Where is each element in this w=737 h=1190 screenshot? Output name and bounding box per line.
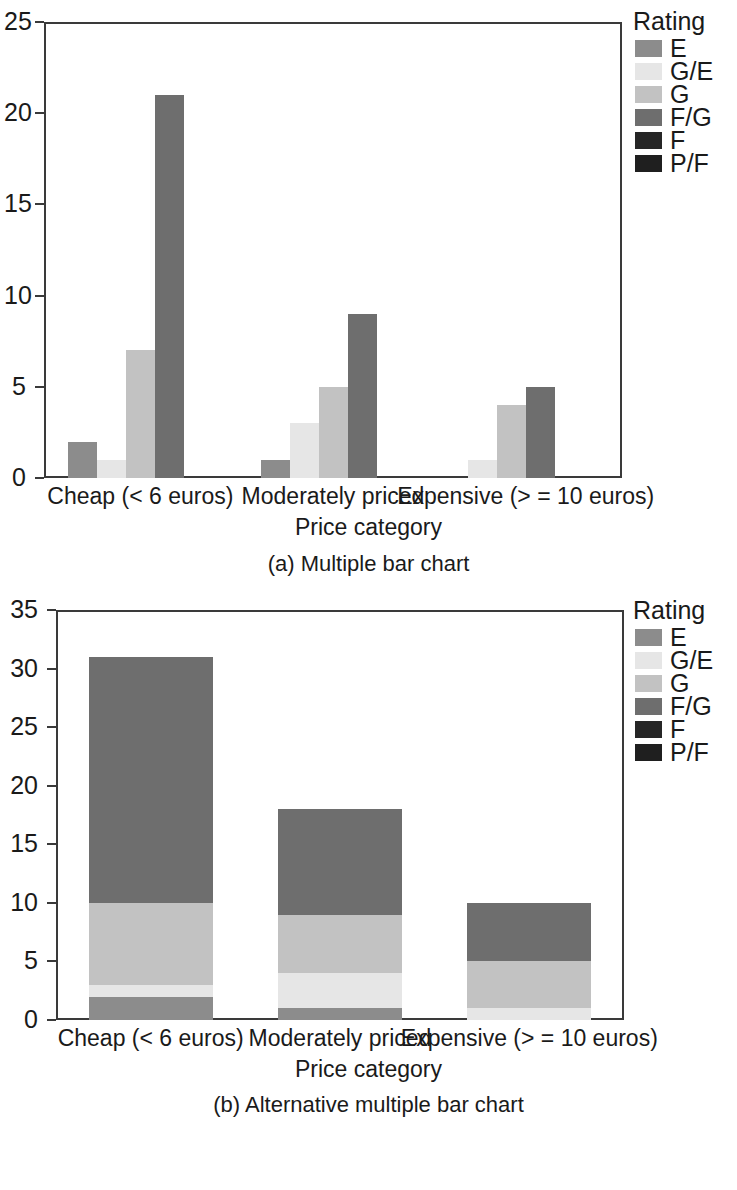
legend-swatch-icon [635, 721, 662, 738]
y-tick-mark [35, 477, 44, 479]
chart-b-x-axis-title: Price category [0, 1057, 737, 1081]
bar-G-0 [126, 350, 155, 478]
bar-G-E-2 [468, 460, 497, 478]
stack-segment-G-E-0 [89, 985, 213, 997]
y-tick-label: 15 [4, 191, 26, 216]
stacked-bar-0 [89, 657, 213, 1020]
chart-b-y-axis-line [56, 610, 58, 1020]
legend-swatch-icon [635, 744, 662, 761]
chart-a-top-border [44, 22, 622, 24]
y-tick-label: 25 [4, 714, 38, 739]
legend-swatch-icon [635, 86, 662, 103]
y-tick-mark [35, 21, 44, 23]
y-tick-mark [47, 609, 56, 611]
figure-alternative-multiple-bar-chart: 05101520253035 Cheap (< 6 euros)Moderate… [0, 585, 737, 1190]
chart-b-caption: (b) Alternative multiple bar chart [0, 1093, 737, 1117]
y-tick-mark [47, 726, 56, 728]
chart-b-top-border [56, 610, 624, 612]
legend-swatch-icon [635, 675, 662, 692]
y-tick-mark [35, 295, 44, 297]
chart-b-legend-title: Rating [633, 597, 705, 623]
x-tick-label: Expensive (> = 10 euros) [399, 1026, 659, 1050]
y-tick-mark [47, 785, 56, 787]
legend-item-label: P/F [670, 150, 709, 176]
bar-E-1 [261, 460, 290, 478]
bar-G-E-1 [290, 423, 319, 478]
stack-segment-G-E-1 [278, 973, 402, 1008]
legend-swatch-icon [635, 109, 662, 126]
y-tick-label: 15 [4, 831, 38, 856]
legend-swatch-icon [635, 132, 662, 149]
y-tick-label: 10 [4, 283, 26, 308]
y-tick-label: 5 [4, 374, 26, 399]
stacked-bar-2 [467, 903, 591, 1020]
y-tick-label: 20 [4, 773, 38, 798]
bar-F-G-2 [526, 387, 555, 478]
bar-F-G-0 [155, 95, 184, 478]
y-tick-mark [47, 1019, 56, 1021]
y-tick-label: 25 [4, 9, 26, 34]
legend-swatch-icon [635, 40, 662, 57]
y-tick-label: 30 [4, 656, 38, 681]
y-tick-mark [35, 386, 44, 388]
figure-multiple-bar-chart: 0510152025 Cheap (< 6 euros)Moderately p… [0, 0, 737, 585]
stack-segment-G-2 [467, 961, 591, 1008]
chart-b-plot-area: 05101520253035 Cheap (< 6 euros)Moderate… [56, 610, 624, 1020]
legend-swatch-icon [635, 63, 662, 80]
y-tick-mark [35, 203, 44, 205]
y-tick-label: 10 [4, 890, 38, 915]
x-tick-label: Expensive (> = 10 euros) [396, 484, 656, 508]
stack-segment-E-0 [89, 997, 213, 1020]
bar-F-G-1 [348, 314, 377, 478]
y-tick-label: 5 [4, 948, 38, 973]
legend-item-label: P/F [670, 739, 709, 765]
bar-G-1 [319, 387, 348, 478]
chart-a-x-axis-title: Price category [0, 515, 737, 539]
y-tick-label: 35 [4, 597, 38, 622]
stack-segment-G-E-2 [467, 1008, 591, 1020]
y-tick-mark [47, 843, 56, 845]
legend-swatch-icon [635, 629, 662, 646]
stack-segment-G-0 [89, 903, 213, 985]
y-tick-mark [47, 902, 56, 904]
legend-swatch-icon [635, 652, 662, 669]
bar-G-2 [497, 405, 526, 478]
y-tick-mark [47, 668, 56, 670]
y-tick-label: 20 [4, 100, 26, 125]
bar-E-0 [68, 442, 97, 478]
stacked-bar-1 [278, 809, 402, 1020]
chart-a-caption: (a) Multiple bar chart [0, 552, 737, 576]
legend-swatch-icon [635, 155, 662, 172]
chart-a-y-axis-line [44, 22, 46, 478]
legend-swatch-icon [635, 698, 662, 715]
stack-segment-F-G-1 [278, 809, 402, 914]
stack-segment-F-G-0 [89, 657, 213, 903]
y-tick-mark [47, 960, 56, 962]
stack-segment-G-1 [278, 915, 402, 974]
chart-a-right-border [620, 22, 622, 478]
stack-segment-F-G-2 [467, 903, 591, 962]
bar-G-E-0 [97, 460, 126, 478]
chart-a-legend-title: Rating [633, 8, 705, 34]
chart-a-plot-area: 0510152025 Cheap (< 6 euros)Moderately p… [44, 22, 622, 478]
stack-segment-E-1 [278, 1008, 402, 1020]
y-tick-mark [35, 112, 44, 114]
chart-b-right-border [622, 610, 624, 1020]
